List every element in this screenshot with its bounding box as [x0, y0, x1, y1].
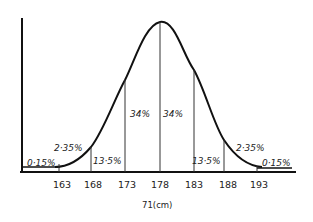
- tick-183: 183: [185, 179, 203, 190]
- pct-label-left-tail: 0·15%: [27, 158, 56, 168]
- tick-188: 188: [219, 179, 237, 190]
- pct-label-173-178: 34%: [130, 109, 150, 119]
- pct-label-183-188: 13·5%: [192, 156, 221, 166]
- pct-label-168-173: 13·5%: [93, 156, 122, 166]
- tick-168: 168: [84, 179, 102, 190]
- x-axis-label: 71(cm): [142, 200, 172, 210]
- pct-label-right-tail: 0·15%: [262, 158, 291, 168]
- tick-173: 173: [118, 179, 136, 190]
- tick-193: 193: [250, 179, 268, 190]
- tick-163: 163: [53, 179, 71, 190]
- pct-label-188-193: 2·35%: [236, 143, 265, 153]
- pct-label-163-168: 2·35%: [54, 143, 83, 153]
- pct-label-178-183: 34%: [163, 109, 183, 119]
- tick-178: 178: [151, 179, 169, 190]
- normal-distribution-chart: 0·15% 2·35% 13·5% 34% 34% 13·5% 2·35% 0·…: [0, 0, 313, 222]
- bell-curve: [55, 22, 262, 167]
